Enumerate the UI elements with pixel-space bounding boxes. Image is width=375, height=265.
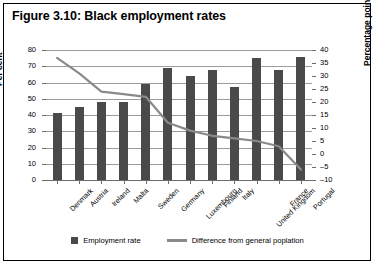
right-axis-tick: [312, 167, 316, 168]
x-axis-tick: [79, 181, 80, 184]
plot-area: [46, 50, 312, 180]
x-axis-ticks: [46, 181, 312, 185]
right-axis-tick: [312, 63, 316, 64]
left-axis-tick-label: 30: [6, 127, 36, 135]
x-axis-tick: [146, 181, 147, 184]
x-axis-tick: [57, 181, 58, 184]
left-axis-tick-label: 60: [6, 79, 36, 87]
right-axis-tick: [312, 76, 316, 77]
left-axis-tick-label: 70: [6, 62, 36, 70]
right-axis-tick-label: 35: [320, 59, 350, 67]
right-axis-tick-label: 10: [320, 124, 350, 132]
left-axis-tick-label: 40: [6, 111, 36, 119]
right-axis-title: Percentage points: [362, 0, 372, 66]
left-axis-tick-label: 50: [6, 95, 36, 103]
right-axis-tick-label: 20: [320, 98, 350, 106]
difference-line: [57, 58, 301, 170]
x-axis-tick: [190, 181, 191, 184]
x-axis-tick: [234, 181, 235, 184]
right-axis-tick-label: 30: [320, 72, 350, 80]
right-axis-tick: [312, 89, 316, 90]
right-axis-tick-label: 15: [320, 111, 350, 119]
x-axis-tick: [212, 181, 213, 184]
right-axis-tick: [312, 141, 316, 142]
x-axis-tick: [101, 181, 102, 184]
legend-bar-swatch: [71, 237, 78, 244]
legend-item-employment-rate: Employment rate: [71, 236, 140, 245]
figure-title: Figure 3.10: Black employment rates: [12, 9, 226, 23]
x-axis-tick: [168, 181, 169, 184]
right-axis-tick-label: 25: [320, 85, 350, 93]
x-axis-tick: [257, 181, 258, 184]
chart-legend: Employment rate Difference from general …: [0, 236, 375, 245]
legend-item-difference: Difference from general poplation: [167, 236, 304, 245]
left-axis-tick-label: 20: [6, 144, 36, 152]
x-axis-tick: [301, 181, 302, 184]
left-axis-tick-label: 80: [6, 46, 36, 54]
line-series: [46, 50, 312, 180]
right-axis-tick: [312, 128, 316, 129]
right-axis-tick-label: 0: [320, 150, 350, 158]
left-axis-title: Per cent: [0, 52, 4, 86]
right-axis-tick: [312, 115, 316, 116]
right-axis-tick-label: –10: [320, 176, 350, 184]
figure-container: Figure 3.10: Black employment rates Per …: [0, 0, 375, 265]
right-axis-tick-label: –5: [320, 163, 350, 171]
legend-bar-label: Employment rate: [83, 236, 140, 245]
legend-line-label: Difference from general poplation: [192, 236, 304, 245]
legend-line-swatch: [167, 239, 187, 242]
right-axis-tick-label: 40: [320, 46, 350, 54]
right-axis-tick: [312, 102, 316, 103]
x-axis-tick: [279, 181, 280, 184]
right-axis-tick: [312, 154, 316, 155]
right-axis-tick: [312, 180, 316, 181]
x-axis-tick: [124, 181, 125, 184]
right-axis-tick-label: 5: [320, 137, 350, 145]
left-axis-tick-label: 0: [6, 176, 36, 184]
right-axis-tick: [312, 50, 316, 51]
left-axis-tick-label: 10: [6, 160, 36, 168]
